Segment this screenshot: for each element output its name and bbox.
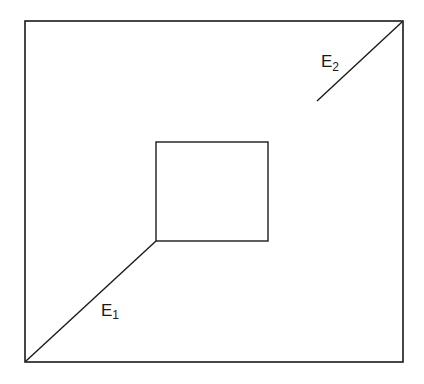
outer-rectangle: [25, 21, 403, 362]
edge-e1-label: E1: [101, 301, 119, 322]
inner-rectangle: [156, 142, 268, 241]
diagram-canvas: E2 E1: [0, 0, 424, 384]
edge-e1-subscript: 1: [112, 308, 119, 322]
edge-e2-label: E2: [321, 52, 339, 74]
edge-e1-line: [26, 241, 156, 361]
edge-e2-subscript: 2: [332, 60, 339, 74]
